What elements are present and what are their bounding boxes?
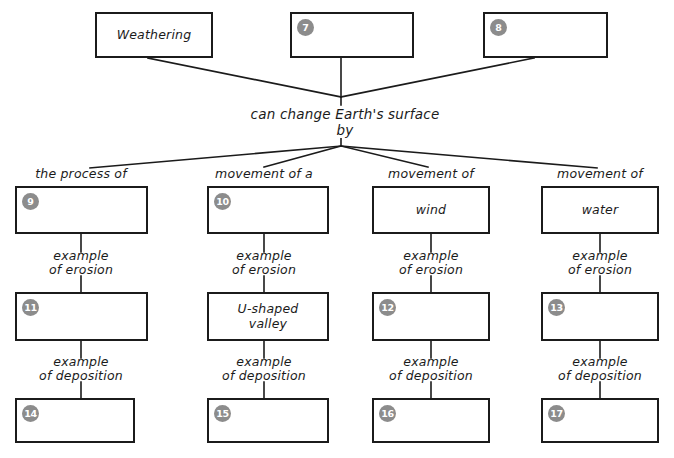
badge-9: 9	[22, 193, 39, 210]
box-weathering-text: Weathering	[117, 28, 192, 43]
column-2-link-erosion: example of erosion	[194, 249, 334, 278]
badge-10: 10	[214, 193, 231, 210]
concept-map-diagram: Weathering 7 8 can change Earth's surfac…	[0, 0, 674, 458]
column-4-header: movement of	[530, 167, 670, 181]
wire-hub-to-col4	[341, 146, 597, 168]
badge-17: 17	[548, 405, 565, 422]
box-8[interactable]: 8	[483, 12, 608, 58]
badge-12: 12	[379, 299, 396, 316]
box-14[interactable]: 14	[15, 398, 135, 443]
box-11[interactable]: 11	[15, 292, 148, 341]
box-wind[interactable]: wind	[372, 186, 490, 234]
column-2-link-deposition: example of deposition	[189, 355, 339, 384]
column-1-link-erosion: example of erosion	[11, 249, 151, 278]
box-water[interactable]: water	[541, 186, 659, 234]
badge-8: 8	[490, 19, 507, 36]
hub-label: can change Earth's surface by	[237, 106, 453, 138]
column-3-header: movement of	[361, 167, 501, 181]
box-10[interactable]: 10	[207, 186, 329, 234]
column-1-header: the process of	[11, 167, 151, 181]
box-15[interactable]: 15	[207, 398, 329, 443]
box-u-shaped-valley[interactable]: U-shaped valley	[207, 292, 329, 341]
badge-15: 15	[214, 405, 231, 422]
column-4-link-deposition: example of deposition	[525, 355, 674, 384]
box-water-text: water	[582, 203, 619, 218]
column-3-link-deposition: example of deposition	[356, 355, 506, 384]
badge-13: 13	[548, 299, 565, 316]
box-7[interactable]: 7	[290, 12, 414, 58]
column-1-link-deposition: example of deposition	[6, 355, 156, 384]
badge-11: 11	[22, 299, 39, 316]
wire-weathering-to-hub	[148, 58, 341, 97]
badge-7: 7	[297, 19, 314, 36]
box-12[interactable]: 12	[372, 292, 490, 341]
badge-16: 16	[379, 405, 396, 422]
box-wind-text: wind	[416, 203, 446, 218]
column-3-link-erosion: example of erosion	[361, 249, 501, 278]
box-9[interactable]: 9	[15, 186, 148, 234]
wire-box8-to-hub	[341, 58, 534, 97]
box-u-shaped-valley-text: U-shaped valley	[238, 302, 299, 332]
column-2-header: movement of a	[194, 167, 334, 181]
column-4-link-erosion: example of erosion	[530, 249, 670, 278]
badge-14: 14	[22, 405, 39, 422]
box-weathering[interactable]: Weathering	[95, 12, 213, 58]
box-13[interactable]: 13	[541, 292, 659, 341]
box-16[interactable]: 16	[372, 398, 490, 443]
box-17[interactable]: 17	[541, 398, 659, 443]
